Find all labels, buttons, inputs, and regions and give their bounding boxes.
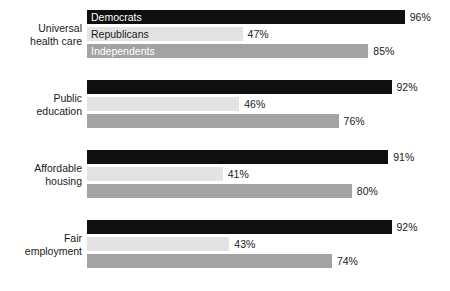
bar-group-affordable-housing: Affordable housing91%41%80% [0, 150, 450, 198]
bar-democrats: Democrats [87, 10, 405, 24]
bar-democrats [87, 220, 392, 234]
bar-republicans [87, 237, 229, 251]
series-label-republicans: Republicans [91, 27, 149, 41]
bar-democrats [87, 80, 392, 94]
series-label-independents: Independents [91, 44, 155, 58]
category-label: Fair employment [0, 232, 82, 257]
bar-republicans [87, 167, 223, 181]
bar-value-republicans: 47% [248, 27, 269, 41]
category-label: Universal health care [0, 22, 82, 47]
bar-independents: Independents [87, 44, 368, 58]
bar-group-public-education: Public education92%46%76% [0, 80, 450, 128]
category-label: Public education [0, 92, 82, 117]
category-label: Affordable housing [0, 162, 82, 187]
bar-democrats [87, 150, 388, 164]
bar-republicans: Republicans [87, 27, 243, 41]
bar-independents [87, 254, 332, 268]
bar-group-fair-employment: Fair employment92%43%74% [0, 220, 450, 268]
bar-value-republicans: 43% [234, 237, 255, 251]
bar-value-independents: 76% [344, 114, 365, 128]
bar-value-independents: 74% [337, 254, 358, 268]
bar-value-independents: 85% [373, 44, 394, 58]
bar-value-democrats: 92% [397, 220, 418, 234]
bar-independents [87, 184, 352, 198]
bar-value-democrats: 91% [393, 150, 414, 164]
grouped-bar-chart: Universal health careDemocrats96%Republi… [0, 0, 450, 291]
bar-republicans [87, 97, 239, 111]
bar-value-republicans: 41% [228, 167, 249, 181]
bar-value-independents: 80% [357, 184, 378, 198]
bar-group-universal-health-care: Universal health careDemocrats96%Republi… [0, 10, 450, 58]
bar-value-democrats: 96% [410, 10, 431, 24]
bar-value-republicans: 46% [244, 97, 265, 111]
series-label-democrats: Democrats [91, 10, 142, 24]
bar-value-democrats: 92% [397, 80, 418, 94]
bar-independents [87, 114, 339, 128]
